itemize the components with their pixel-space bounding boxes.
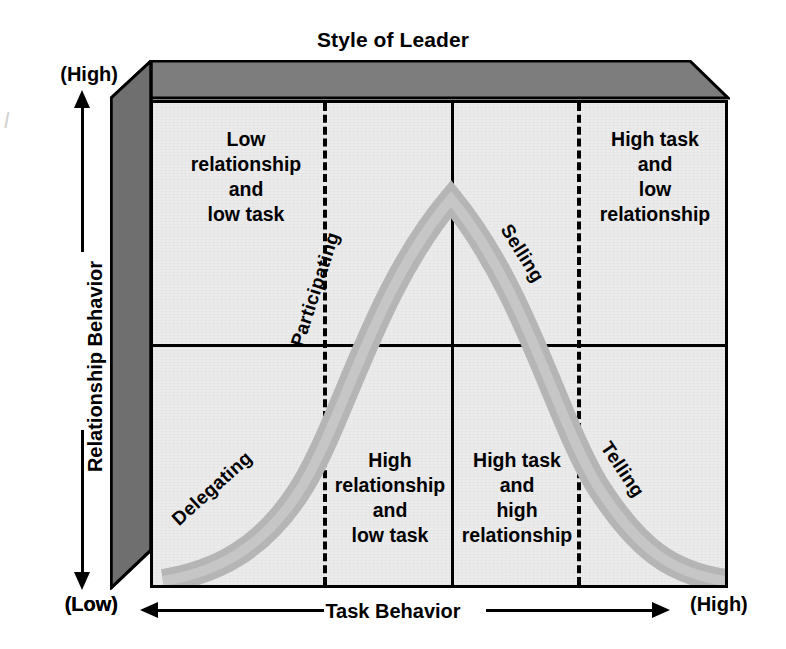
quadrant-bottom-right: High task and high relationship bbox=[455, 448, 579, 548]
quadrant-top-right-line4: relationship bbox=[581, 202, 728, 227]
quadrant-top-left: Low relationship and low task bbox=[171, 127, 321, 227]
quadrant-bottom-left: High relationship and low task bbox=[329, 448, 451, 548]
arrow-down-icon bbox=[74, 572, 90, 590]
quadrant-bottom-left-line4: low task bbox=[329, 523, 451, 548]
quadrant-top-left-line3: and bbox=[171, 177, 321, 202]
quadrant-top-left-line4: low task bbox=[171, 202, 321, 227]
quadrant-top-left-line2: relationship bbox=[171, 152, 321, 177]
quadrant-top-right: High task and low relationship bbox=[581, 127, 728, 227]
quadrant-bottom-right-line1: High task bbox=[455, 448, 579, 473]
quadrant-top-right-line2: and bbox=[581, 152, 728, 177]
y-axis-title: Relationship Behavior bbox=[84, 217, 107, 517]
leadership-model-box: Low relationship and low task High task … bbox=[110, 60, 730, 590]
quadrant-top-left-line1: Low bbox=[171, 127, 321, 152]
chart-title: Style of Leader bbox=[0, 28, 786, 52]
quadrant-bottom-left-line1: High bbox=[329, 448, 451, 473]
x-axis-title: Task Behavior bbox=[0, 600, 786, 623]
quadrant-bottom-right-line3: high bbox=[455, 498, 579, 523]
page-bleed-artifact: l bbox=[4, 108, 9, 134]
y-axis-high-label: (High) bbox=[10, 63, 118, 86]
box-left-face bbox=[111, 61, 151, 588]
quadrant-top-right-line1: High task bbox=[581, 127, 728, 152]
quadrant-bottom-left-line3: and bbox=[329, 498, 451, 523]
diagram-canvas: l Style of Leader (High) (Low) Relations… bbox=[0, 0, 786, 649]
quadrant-bottom-right-line4: relationship bbox=[455, 523, 579, 548]
quadrant-bottom-right-line2: and bbox=[455, 473, 579, 498]
box-top-face bbox=[111, 61, 728, 98]
quadrant-bottom-left-line2: relationship bbox=[329, 473, 451, 498]
quadrant-top-right-line3: low bbox=[581, 177, 728, 202]
plot-area: Low relationship and low task High task … bbox=[150, 100, 728, 588]
